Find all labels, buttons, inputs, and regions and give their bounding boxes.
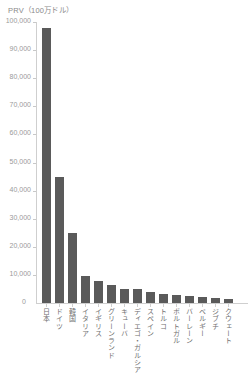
x-axis-label: クウェート <box>222 308 235 345</box>
bar[interactable] <box>211 298 220 303</box>
x-axis-labels: 日本ドイツ韓国イタリアイギリスグリーンランドキューバディエゴ・ガルシアスペイント… <box>36 308 248 384</box>
y-axis-tick-label: 20,000 <box>10 242 31 249</box>
x-axis-label: イギリス <box>92 308 105 337</box>
y-axis-tick-label: 80,000 <box>10 73 31 80</box>
bar[interactable] <box>120 289 129 303</box>
y-axis-tick-label: 30,000 <box>10 214 31 221</box>
x-axis-tick-mark <box>59 304 60 307</box>
bar[interactable] <box>172 295 181 303</box>
x-axis-label: イタリア <box>79 308 92 337</box>
bar[interactable] <box>68 233 77 303</box>
bar-slot <box>209 22 222 303</box>
bar-slot <box>53 22 66 303</box>
x-axis-tick-mark <box>228 304 229 307</box>
x-axis-tick-mark <box>189 304 190 307</box>
bar-slot <box>183 22 196 303</box>
x-axis-tick-mark <box>111 304 112 307</box>
bar-slot <box>105 22 118 303</box>
x-axis-tick-mark <box>98 304 99 307</box>
y-axis-zero-label: 0 <box>22 298 26 305</box>
x-axis-tick-mark <box>215 304 216 307</box>
x-axis-label: キューバ <box>118 308 131 337</box>
bar-slot <box>131 22 144 303</box>
y-axis-tick-label: 10,000 <box>10 270 31 277</box>
bar-slot <box>144 22 157 303</box>
x-axis-tick-mark <box>137 304 138 307</box>
x-axis-label: 日本 <box>40 308 53 323</box>
bar[interactable] <box>81 276 90 303</box>
bar[interactable] <box>55 177 64 303</box>
y-axis-tick-label: 70,000 <box>10 101 31 108</box>
bar[interactable] <box>185 296 194 303</box>
y-axis-tick-label: 90,000 <box>10 45 31 52</box>
x-axis-label: 韓国 <box>66 308 79 323</box>
bar[interactable] <box>224 299 233 303</box>
x-axis-tick-mark <box>150 304 151 307</box>
y-axis-tick-label: 100,000 <box>6 17 31 24</box>
x-axis-tick-mark <box>176 304 177 307</box>
bar-slot <box>170 22 183 303</box>
x-axis-label: スペイン <box>144 308 157 337</box>
plot-area <box>36 22 248 303</box>
x-axis-label: バーレーン <box>183 308 196 345</box>
x-axis-tick-mark <box>124 304 125 307</box>
x-axis-label: トルコ <box>157 308 170 330</box>
x-axis-tick-mark <box>72 304 73 307</box>
bar[interactable] <box>146 292 155 303</box>
x-axis-label: ジブチ <box>209 308 222 330</box>
x-axis-label: ドイツ <box>53 308 66 330</box>
bar[interactable] <box>107 285 116 303</box>
bar[interactable] <box>133 289 142 303</box>
bar[interactable] <box>159 294 168 303</box>
bar-slot <box>92 22 105 303</box>
bar-slot <box>196 22 209 303</box>
bar[interactable] <box>94 281 103 303</box>
bar-slot <box>79 22 92 303</box>
x-axis-label: ポルトガル <box>170 308 183 345</box>
bar-slot <box>222 22 235 303</box>
y-axis-tick-label: 50,000 <box>10 158 31 165</box>
x-axis-line <box>36 303 248 304</box>
bar[interactable] <box>42 28 51 303</box>
x-axis-tick-mark <box>202 304 203 307</box>
x-axis-tick-mark <box>163 304 164 307</box>
bar-chart: PRV（100万ドル） 100,00090,00080,00070,00060,… <box>0 0 252 384</box>
x-axis-tick-mark <box>85 304 86 307</box>
bar-slot <box>118 22 131 303</box>
chart-title: PRV（100万ドル） <box>8 4 73 15</box>
x-axis-label: グリーンランド <box>105 308 118 359</box>
bar-slot <box>66 22 79 303</box>
y-axis: 100,00090,00080,00070,00060,00050,00040,… <box>0 22 36 303</box>
bar-slot <box>157 22 170 303</box>
bar[interactable] <box>198 297 207 303</box>
y-axis-tick-label: 60,000 <box>10 129 31 136</box>
x-axis-label: ベルギー <box>196 308 209 337</box>
y-axis-tick-label: 40,000 <box>10 186 31 193</box>
bar-slot <box>40 22 53 303</box>
x-axis-label: ディエゴ・ガルシア <box>131 308 144 374</box>
x-axis-tick-mark <box>46 304 47 307</box>
